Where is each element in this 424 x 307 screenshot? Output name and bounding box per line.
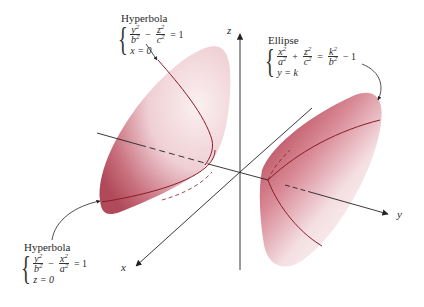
hyperbola-top-equations: { y2b2 − z2c2 = 1 x = 0 [118,24,184,56]
brace: { [21,253,31,285]
y-axis-label: y [397,208,402,220]
ellipse-equations: { x2a2 + z2c2 = k2b2 − 1 y = k [265,46,357,78]
brace: { [118,24,128,56]
right-sheet [260,93,382,267]
left-sheet [100,46,231,214]
brace: { [265,46,275,78]
x-axis-label: x [121,261,126,273]
hyperbola-bottom-equations: { y2b2 − x2a2 = 1 z = 0 [21,253,88,285]
pointer-hyperbola-bottom [52,201,100,240]
z-axis-label: z [227,24,231,36]
